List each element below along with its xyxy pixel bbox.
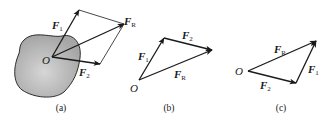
label-f2: F2: [78, 66, 90, 80]
label-origin-o: O: [235, 65, 243, 77]
label-fr: FR: [123, 15, 136, 29]
force-diagram-figure: F1 F2 FR O (a) F1 F2 FR O (b) FR F2 F1 O…: [0, 0, 332, 124]
label-origin-o: O: [42, 54, 50, 66]
caption-b: (b): [163, 103, 174, 114]
label-f2: F2: [181, 29, 193, 43]
label-f1: F1: [137, 50, 149, 64]
caption-c: (c): [276, 103, 287, 114]
label-f1: F1: [307, 63, 319, 77]
vector-f1-arrow: [296, 41, 316, 83]
panel-c: FR F2 F1 O (c): [235, 41, 319, 114]
vector-f2-arrow: [248, 71, 296, 83]
diagram-canvas: F1 F2 FR O (a) F1 F2 FR O (b) FR F2 F1 O…: [0, 0, 332, 124]
panel-b: F1 F2 FR O (b): [130, 29, 212, 114]
panel-a: F1 F2 FR O (a): [15, 10, 137, 114]
parallelogram-side-top: [79, 10, 124, 24]
label-fr: FR: [273, 43, 286, 57]
label-f1: F1: [51, 19, 63, 33]
label-f2: F2: [259, 79, 271, 93]
caption-a: (a): [56, 103, 67, 114]
label-fr: FR: [173, 68, 186, 82]
label-origin-o: O: [130, 82, 138, 94]
